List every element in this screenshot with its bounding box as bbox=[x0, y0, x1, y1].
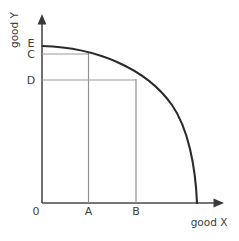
x-tick-label-a: A bbox=[85, 205, 93, 218]
y-axis-tick-labels: E C D bbox=[27, 37, 35, 87]
y-axis-title: good Y bbox=[8, 11, 20, 48]
y-tick-label-c: C bbox=[27, 48, 35, 61]
guide-lines-group bbox=[42, 53, 136, 203]
x-axis-arrow-icon bbox=[214, 199, 225, 208]
y-axis-arrow-icon bbox=[38, 14, 47, 25]
ppf-diagram: E C D 0 A B good Y good X bbox=[0, 0, 239, 241]
x-axis-tick-labels: 0 A B bbox=[33, 205, 140, 218]
y-tick-label-d: D bbox=[27, 74, 35, 87]
ppf-curve-group bbox=[43, 46, 198, 203]
x-axis-title: good X bbox=[191, 216, 228, 228]
x-tick-label-b: B bbox=[132, 205, 140, 218]
ppf-svg-canvas: E C D 0 A B good Y good X bbox=[0, 0, 239, 241]
x-origin-label: 0 bbox=[33, 205, 40, 218]
ppf-curve-path bbox=[43, 46, 198, 203]
axis-titles-group: good Y good X bbox=[8, 11, 227, 228]
